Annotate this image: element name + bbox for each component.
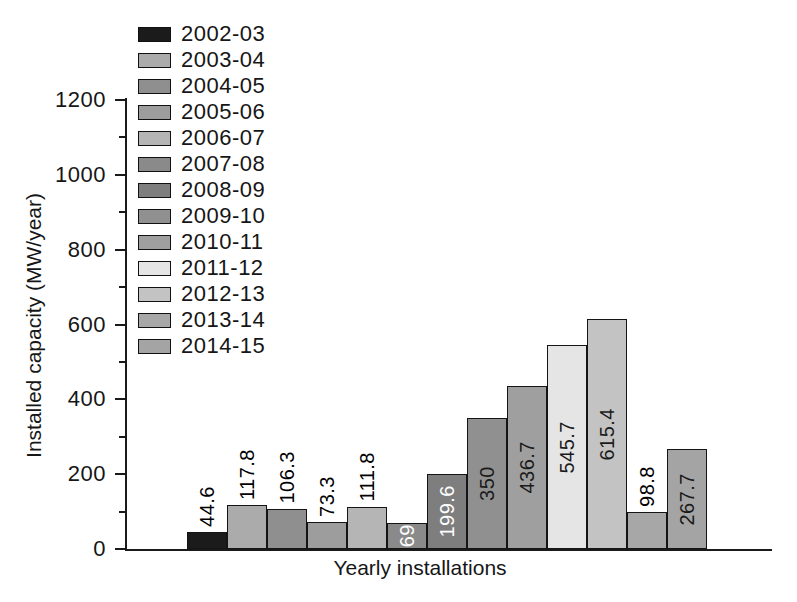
legend-label: 2009-10: [181, 205, 265, 227]
y-tick-label: 1000: [0, 162, 106, 188]
bar-value-label: 69: [387, 523, 427, 549]
bar-value-text: 350: [476, 466, 498, 501]
y-major-tick: [115, 324, 125, 326]
bar-value-text: 98.8: [636, 466, 658, 507]
legend-row: 2011-12: [138, 255, 265, 281]
y-minor-tick: [119, 361, 125, 363]
bar-value-text: 615.4: [596, 408, 618, 461]
legend-label: 2005-06: [181, 101, 265, 123]
legend-swatch: [138, 157, 171, 172]
installed-capacity-bar-chart: Installed capacity (MW/year) Yearly inst…: [0, 0, 797, 602]
bar-value-text: 73.3: [316, 476, 338, 517]
x-axis-line: [125, 549, 772, 551]
legend-row: 2007-08: [138, 151, 265, 177]
legend-label: 2013-14: [181, 309, 265, 331]
y-tick-label: 200: [0, 461, 106, 487]
y-major-tick: [115, 548, 125, 550]
y-minor-tick: [119, 436, 125, 438]
bar-value-label: 615.4: [587, 319, 627, 549]
legend-row: 2010-11: [138, 229, 265, 255]
bar-value-label: 199.6: [427, 474, 467, 549]
y-major-tick: [115, 398, 125, 400]
y-major-tick: [115, 99, 125, 101]
legend-row: 2008-09: [138, 177, 265, 203]
legend-row: 2013-14: [138, 307, 265, 333]
legend-label: 2004-05: [181, 75, 265, 97]
legend-row: 2002-03: [138, 21, 265, 47]
bar-value-text: 436.7: [516, 441, 538, 494]
y-major-tick: [115, 174, 125, 176]
legend-swatch: [138, 287, 171, 302]
bar-2005-06: [307, 522, 347, 549]
legend-label: 2002-03: [181, 23, 265, 45]
y-tick-label: 800: [0, 237, 106, 263]
legend-row: 2003-04: [138, 47, 265, 73]
bar-2006-07: [347, 507, 387, 549]
y-major-tick: [115, 249, 125, 251]
bar-value-text: 199.6: [436, 485, 458, 538]
legend-swatch: [138, 235, 171, 250]
legend-label: 2012-13: [181, 283, 265, 305]
legend-label: 2010-11: [181, 231, 264, 253]
bar-value-text: 117.8: [236, 449, 258, 500]
legend-swatch: [138, 339, 171, 354]
legend-swatch: [138, 183, 171, 198]
legend-label: 2008-09: [181, 179, 265, 201]
x-axis-title: Yearly installations: [125, 556, 715, 580]
legend-swatch: [138, 27, 171, 42]
bar-value-label: 350: [467, 418, 507, 549]
y-minor-tick: [119, 286, 125, 288]
y-axis-line: [125, 98, 127, 551]
bar-value-text: 106.3: [276, 451, 298, 504]
legend-row: 2014-15: [138, 333, 265, 359]
bar-value-text: 44.6: [196, 486, 218, 527]
y-minor-tick: [119, 211, 125, 213]
y-tick-label: 0: [0, 536, 106, 562]
bar-2013-14: [627, 512, 667, 549]
legend-swatch: [138, 313, 171, 328]
y-tick-label: 400: [0, 386, 106, 412]
bar-2003-04: [227, 505, 267, 549]
legend-swatch: [138, 131, 171, 146]
legend: 2002-032003-042004-052005-062006-072007-…: [138, 21, 265, 359]
legend-label: 2011-12: [181, 257, 264, 279]
legend-swatch: [138, 53, 171, 68]
legend-row: 2004-05: [138, 73, 265, 99]
y-tick-label: 1200: [0, 87, 106, 113]
bar-value-label: 436.7: [507, 386, 547, 549]
bar-value-text: 545.7: [556, 421, 578, 474]
bar-value-text: 267.7: [676, 473, 698, 526]
bar-value-text: 111.8: [356, 452, 378, 502]
bar-value-label: 545.7: [547, 345, 587, 549]
legend-swatch: [138, 209, 171, 224]
bar-value-label: 267.7: [667, 449, 707, 549]
y-minor-tick: [119, 511, 125, 513]
legend-row: 2005-06: [138, 99, 265, 125]
legend-label: 2014-15: [181, 335, 265, 357]
legend-row: 2009-10: [138, 203, 265, 229]
legend-label: 2003-04: [181, 49, 265, 71]
legend-label: 2006-07: [181, 127, 265, 149]
bar-2002-03: [187, 532, 227, 549]
legend-label: 2007-08: [181, 153, 265, 175]
legend-swatch: [138, 105, 171, 120]
legend-row: 2006-07: [138, 125, 265, 151]
legend-row: 2012-13: [138, 281, 265, 307]
bar-2004-05: [267, 509, 307, 549]
legend-swatch: [138, 79, 171, 94]
y-minor-tick: [119, 136, 125, 138]
bar-value-text: 69: [396, 524, 418, 547]
legend-swatch: [138, 261, 171, 276]
y-tick-label: 600: [0, 312, 106, 338]
y-major-tick: [115, 473, 125, 475]
